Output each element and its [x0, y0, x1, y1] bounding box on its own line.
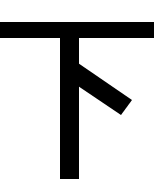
stroke-vertical [60, 22, 79, 179]
stroke-diagonal-dot [78, 63, 132, 115]
character-canvas [0, 0, 162, 179]
xia-character-icon [0, 0, 162, 179]
